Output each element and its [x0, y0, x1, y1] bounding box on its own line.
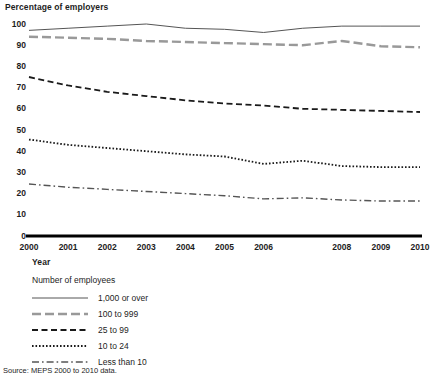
y-tick-label: 30	[4, 168, 26, 177]
y-tick-label: 100	[4, 20, 26, 29]
legend-title: Number of employees	[32, 275, 282, 285]
y-tick-label: 50	[4, 126, 26, 135]
x-axis-title: Year	[32, 257, 50, 267]
plot-area	[0, 0, 428, 245]
y-tick-label: 10	[4, 210, 26, 219]
legend-swatch-icon	[32, 293, 88, 303]
legend-item: 10 to 24	[32, 339, 282, 353]
y-tick-label: 70	[4, 83, 26, 92]
legend-item-label: 1,000 or over	[98, 293, 148, 303]
y-tick-label: 90	[4, 41, 26, 50]
legend-swatch-icon	[32, 325, 88, 335]
x-tick-label: 2009	[363, 243, 399, 252]
x-tick-label: 2010	[402, 243, 434, 252]
x-tick-label: 2006	[246, 243, 282, 252]
series-line-4	[29, 184, 420, 201]
y-tick-label: 20	[4, 189, 26, 198]
x-tick-label: 2001	[50, 243, 86, 252]
source-note: Source: MEPS 2000 to 2010 data.	[3, 366, 117, 375]
y-tick-label: 60	[4, 104, 26, 113]
y-tick-label: 40	[4, 147, 26, 156]
x-tick-label: 2005	[207, 243, 243, 252]
x-tick-label: 2008	[324, 243, 360, 252]
legend-item-label: 10 to 24	[98, 341, 129, 351]
legend-items: 1,000 or over100 to 99925 to 9910 to 24L…	[32, 291, 282, 369]
legend-item: 25 to 99	[32, 323, 282, 337]
series-line-1	[29, 37, 420, 48]
legend-item: 100 to 999	[32, 307, 282, 321]
series-line-2	[29, 77, 420, 112]
y-tick-label: 80	[4, 62, 26, 71]
series-line-0	[29, 24, 420, 32]
x-tick-label: 2000	[11, 243, 47, 252]
legend-item-label: 100 to 999	[98, 309, 138, 319]
series-line-3	[29, 140, 420, 168]
legend-swatch-icon	[32, 341, 88, 351]
legend-item: 1,000 or over	[32, 291, 282, 305]
x-tick-label: 2002	[89, 243, 125, 252]
x-tick-label: 2003	[128, 243, 164, 252]
chart-legend: Number of employees 1,000 or over100 to …	[32, 275, 282, 371]
x-tick-label: 2004	[167, 243, 203, 252]
y-tick-label: 0	[4, 232, 26, 241]
legend-swatch-icon	[32, 309, 88, 319]
legend-item-label: 25 to 99	[98, 325, 129, 335]
